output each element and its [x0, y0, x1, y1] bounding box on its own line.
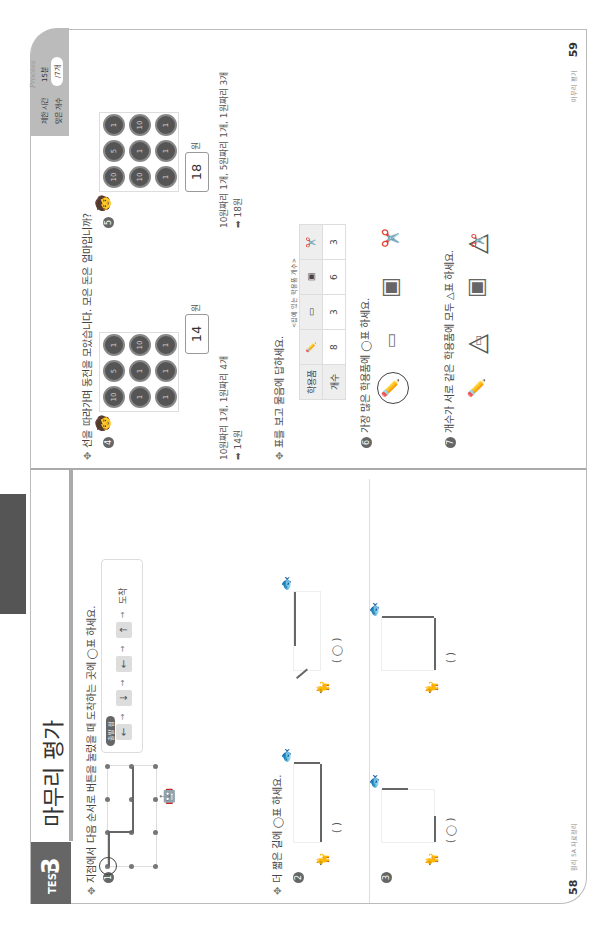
- cat-icon: 🐈: [425, 852, 439, 867]
- textbook-spread: TEST 3 마무리 평가 ✥지점에서 다음 순서로 버튼을 눌렀을 때 도착하…: [0, 0, 615, 934]
- pencil-icon: ✏️: [300, 330, 323, 365]
- table-caption: <집에 있는 학용품 개수>: [289, 258, 298, 328]
- question-1-prompt: ✥지점에서 다음 순서로 버튼을 눌렀을 때 도착하는 곳에 ◯표 하세요.: [83, 606, 98, 895]
- map-grid: [107, 765, 157, 867]
- answer-paren-3a: ( ◯ ): [445, 818, 456, 843]
- explanation-4: 10원짜리 1개, 1원짜리 4개: [217, 356, 230, 460]
- scissors-icon: ✂️: [300, 225, 323, 260]
- question-number-6: 6: [361, 437, 372, 448]
- cat-icon: 🐈: [316, 680, 330, 695]
- fish-icon: 🐟: [367, 602, 381, 617]
- answer-circle: [99, 857, 117, 875]
- left-page: TEST 3 마무리 평가 ✥지점에서 다음 순서로 버튼을 눌렀을 때 도착하…: [30, 469, 587, 904]
- pencilcase-icon: ▣: [300, 260, 323, 295]
- test-tab: TEST 3: [31, 842, 71, 904]
- page-title: 마무리 평가: [35, 720, 67, 827]
- question-number-3: 3: [381, 872, 392, 883]
- diamond-bullet-icon: ✥: [82, 452, 93, 460]
- correct-count-value: /7개: [51, 57, 63, 86]
- pencil-icon: ✏️: [467, 378, 486, 398]
- cmd-left-icon: ←: [116, 724, 132, 740]
- question-6-7-prompt: ✥표를 보고 물음에 답하세요.: [271, 336, 286, 460]
- scissors-icon: ✂️: [471, 233, 485, 248]
- brand: Process: [29, 60, 37, 88]
- scissors-icon: ✂️: [381, 228, 400, 248]
- header-rule: [69, 469, 73, 841]
- question-2-3-prompt: ✥더 짧은 길에 ◯표 하세요.: [269, 775, 284, 895]
- cmd-down-icon: ↓: [116, 690, 132, 706]
- footer-text: 원리 5A 자료정리: [569, 823, 578, 871]
- cat-icon: 🐈: [316, 852, 330, 867]
- coin-grid-4: 10 5 1 1 1 10 1 1 1: [99, 332, 179, 412]
- eraser-icon: ▭: [471, 335, 485, 346]
- eraser-icon: ▭: [300, 295, 323, 330]
- pencilcase-icon: ▣: [377, 277, 402, 298]
- eraser-icon: ▭: [381, 333, 400, 348]
- binding-strip: [0, 494, 26, 614]
- diamond-bullet-icon: ✥: [86, 887, 97, 895]
- question-number-5: 5: [103, 217, 114, 228]
- explanation-5: 10원짜리 1개, 5원짜리 1개, 1원짜리 3개: [217, 72, 230, 228]
- question-divider: [369, 479, 370, 903]
- pencil-icon: ✏️: [381, 378, 400, 398]
- supplies-table: 학용품 ✏️ ▭ ▣ ✂️ 개수 8 3 6 3: [299, 224, 346, 400]
- table-header-label: 학용품: [300, 365, 323, 400]
- command-box: 출발 점 ← → ↓ → ← → ↑ → 도착: [101, 559, 143, 753]
- question-7-prompt: 7개수가 서로 같은 학용품에 모두 △표 하세요.: [441, 250, 456, 448]
- cmd-left-icon: ←: [116, 656, 132, 672]
- child-icon: 🧒: [95, 415, 111, 432]
- answer-paren-2a: ( ): [331, 822, 342, 833]
- test-number: 3: [37, 857, 65, 874]
- cmd-up-icon: ↑: [116, 622, 132, 638]
- coin-grid-5: 10 5 1 10 1 10 1 1 1: [99, 112, 179, 192]
- robot-icon: 🤖: [159, 788, 175, 805]
- result-5: ➡ 18원: [231, 198, 244, 228]
- goal-label: 도착: [116, 588, 129, 604]
- count-label: 개수: [323, 365, 346, 400]
- cat-icon: 🐈: [425, 680, 439, 695]
- question-number-7: 7: [445, 437, 456, 448]
- answer-paren-3b: ( ): [445, 652, 456, 663]
- time-limit-label: 제한 시간: [39, 98, 49, 124]
- question-number-4: 4: [103, 437, 114, 448]
- question-6-prompt: 6가장 많은 학용품에 ◯표 하세요.: [357, 298, 372, 448]
- question-number-2: 2: [293, 872, 304, 883]
- answer-paren-2b: ( ◯ ): [331, 638, 342, 663]
- time-limit-value: 15분: [39, 67, 49, 82]
- fish-icon: 🐟: [279, 748, 293, 763]
- result-4: ➡ 14원: [231, 430, 244, 460]
- diamond-bullet-icon: ✥: [272, 887, 283, 895]
- path-grid-2b: [293, 591, 321, 671]
- fish-icon: 🐟: [367, 774, 381, 789]
- page-number: 59: [567, 42, 580, 57]
- start-badge: 출발 점: [106, 716, 115, 746]
- answer-box-4[interactable]: 14: [185, 314, 209, 354]
- path-grid-3a: [381, 789, 435, 843]
- unit-label: 원: [189, 142, 202, 150]
- unit-label: 원: [189, 304, 202, 312]
- question-4-5-prompt: ✥선을 따라가며 동전을 모았습니다. 모은 돈은 얼마입니까?: [79, 213, 94, 460]
- path-grid-3b: [381, 617, 435, 671]
- footer-text: 마무리 평가: [569, 70, 578, 102]
- answer-box-5[interactable]: 18: [185, 152, 209, 192]
- path-grid-2a: [293, 763, 321, 843]
- pencilcase-icon: ▣: [463, 277, 488, 298]
- time-score-box: 제한 시간 15분 맞은 개수 /7개 Process: [31, 28, 69, 136]
- page-number: 58: [567, 880, 580, 895]
- correct-count-label: 맞은 개수: [53, 98, 63, 124]
- child-icon: 🧒: [95, 195, 111, 212]
- diamond-bullet-icon: ✥: [274, 452, 285, 460]
- right-page: 제한 시간 15분 맞은 개수 /7개 Process ✥선을 따라가며 동전을…: [30, 29, 587, 470]
- fish-icon: 🐟: [279, 576, 293, 591]
